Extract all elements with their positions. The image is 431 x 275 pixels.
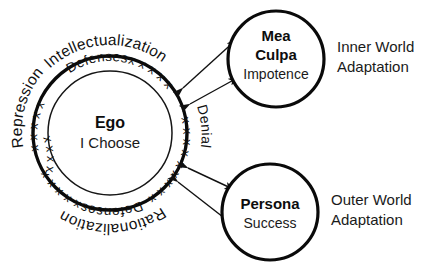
ego-circle-group: Defenses x x x x x x x x x x Defenses x …	[26, 49, 194, 220]
node-mea-culpa[interactable]: Mea Culpa Impotence	[228, 11, 324, 107]
ego-subtitle: I Choose	[80, 134, 140, 151]
inner-world-line2: Adaptation	[337, 58, 409, 75]
outer-label-denial: Denial	[194, 103, 215, 149]
ego-defenses-diagram: Defenses x x x x x x x x x x Defenses x …	[0, 0, 431, 275]
ego-ring-label-bottom: Defenses	[78, 199, 145, 221]
outer-world-line1: Outer World	[331, 191, 412, 208]
outer-world-line2: Adaptation	[331, 211, 403, 228]
ego-inner-ring	[48, 71, 172, 195]
mea-culpa-title-line1: Mea	[261, 27, 291, 44]
persona-circle[interactable]	[222, 164, 318, 260]
persona-title-line1: Persona	[240, 195, 300, 212]
ego-ring-x-right: x x x x	[178, 115, 195, 158]
ego-title: Ego	[95, 114, 125, 131]
ego-ring-x-bottom-right: x x x x x	[146, 159, 188, 207]
ego-ring-x-bottom-left: x x x x x	[37, 168, 83, 212]
mea-culpa-subtitle: Impotence	[243, 66, 309, 82]
side-label-outer-world: Outer World Adaptation	[331, 191, 412, 228]
mea-culpa-title-line2: Culpa	[255, 46, 297, 63]
node-persona[interactable]: Persona Success	[222, 164, 318, 260]
inner-world-line1: Inner World	[337, 38, 414, 55]
side-label-inner-world: Inner World Adaptation	[337, 38, 414, 75]
diagram-canvas: Defenses x x x x x x x x x x Defenses x …	[0, 0, 431, 275]
persona-subtitle: Success	[244, 215, 297, 231]
